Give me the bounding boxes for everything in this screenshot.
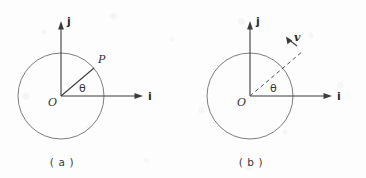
theta-label-b: θ — [270, 82, 277, 95]
j-axis-b — [247, 21, 253, 96]
caption-panel-b: ( b ) — [239, 156, 264, 168]
j-axis-label-b: j — [255, 15, 260, 28]
j-axis-arrowhead-b — [247, 21, 253, 30]
i-axis-label-b: i — [337, 90, 341, 103]
figure-canvas: j i O θ P ( a ) — [0, 0, 366, 178]
vector-v-label-b: v — [294, 31, 301, 44]
origin-label-b: O — [237, 96, 246, 109]
i-axis-b — [250, 93, 332, 99]
i-axis-arrowhead-b — [324, 93, 333, 99]
velocity-arrowhead-b — [286, 37, 292, 45]
diagram-panel-b: j i O θ v ( b ) — [0, 0, 366, 178]
